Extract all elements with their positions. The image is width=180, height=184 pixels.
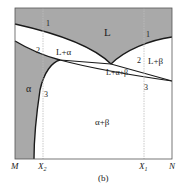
axis-tick-x2: X2 [37, 161, 47, 172]
label-liquid: L [104, 26, 111, 38]
axis-tick-x1: X1 [138, 161, 148, 172]
point-x1-2: 2 [137, 56, 141, 65]
axis-label-m: M [10, 161, 19, 171]
axis-label-n: N [168, 161, 176, 171]
point-x2-2: 2 [36, 46, 40, 55]
label-three-phase: L+α+β [106, 68, 128, 77]
point-x2-1: 1 [46, 19, 50, 28]
label-liquid-alpha: L+α [56, 47, 72, 57]
point-x2-3: 3 [44, 90, 48, 99]
point-x1-3: 3 [144, 83, 148, 92]
label-alpha-beta: α+β [95, 117, 110, 127]
point-x1-1: 1 [146, 30, 150, 39]
phase-diagram: L L+α L+β L+α+β α α+β 1 2 3 1 2 3 M X2 X… [0, 0, 180, 184]
label-liquid-beta: L+β [148, 56, 164, 66]
figure-caption: (b) [98, 173, 109, 183]
label-alpha: α [26, 83, 32, 94]
